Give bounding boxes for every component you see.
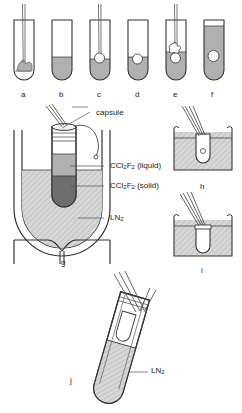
figure-canvas: a b c d e f [0, 0, 242, 413]
tube-a [14, 4, 34, 80]
annotation-ln2-j: LN2 [151, 366, 165, 377]
panel-label-f: f [211, 90, 213, 99]
panel-label-i: i [201, 266, 203, 275]
tube-b [50, 20, 74, 83]
tube-c [88, 4, 112, 85]
panel-label-c: c [97, 90, 101, 99]
panel-label-g: g [61, 258, 65, 267]
panel-j-tilted-tube [62, 268, 192, 413]
capsule-tube [52, 124, 76, 207]
panel-label-b: b [59, 90, 63, 99]
panel-label-d: d [135, 90, 139, 99]
annotation-ccl2f2-liquid: CCl2F2 (liquid) [110, 161, 161, 172]
annotation-ccl2f2-solid: CCl2F2 (solid) [110, 181, 159, 192]
tube-d [126, 20, 150, 85]
panel-label-e: e [173, 90, 177, 99]
panel-label-a: a [21, 90, 25, 99]
tube-sequence-row [0, 0, 242, 108]
panel-i-tweezers-dipping [168, 192, 242, 264]
panel-label-j: j [70, 376, 72, 385]
panel-label-h: h [200, 182, 204, 191]
annotation-ln2: LN2 [110, 213, 124, 224]
ccl2f2-solid-fill [52, 176, 76, 207]
panel-h-tweezers-above [168, 106, 242, 178]
annotation-capsule: capsule [96, 108, 124, 117]
tube-e [164, 4, 188, 84]
tube-f [202, 20, 226, 86]
